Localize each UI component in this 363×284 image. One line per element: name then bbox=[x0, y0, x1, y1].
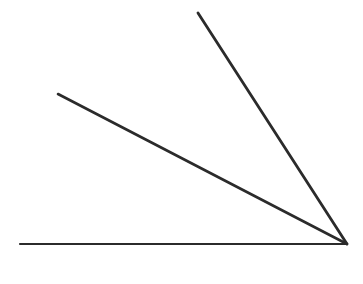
figure-canvas bbox=[0, 0, 363, 284]
angle-diagram bbox=[0, 0, 363, 284]
figure-background bbox=[0, 0, 363, 284]
